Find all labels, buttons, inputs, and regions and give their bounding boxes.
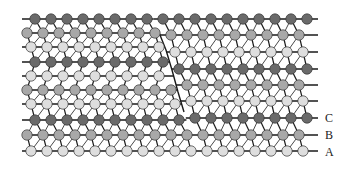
atom-a bbox=[42, 146, 52, 156]
atom-a bbox=[282, 47, 292, 57]
atom-c bbox=[78, 57, 88, 67]
atom-b bbox=[70, 85, 80, 95]
atom-c bbox=[158, 14, 168, 24]
atom-b bbox=[182, 80, 192, 90]
atom-a bbox=[26, 99, 36, 109]
atom-b bbox=[134, 28, 144, 38]
atom-b bbox=[86, 85, 96, 95]
atom-a bbox=[298, 146, 308, 156]
atom-b bbox=[102, 85, 112, 95]
atom-a bbox=[42, 99, 52, 109]
atom-a bbox=[58, 99, 68, 109]
atom-a bbox=[106, 42, 116, 52]
atom-a bbox=[266, 47, 276, 57]
atom-c bbox=[78, 115, 88, 125]
atom-b bbox=[230, 80, 240, 90]
atom-c bbox=[46, 115, 56, 125]
atom-a bbox=[186, 146, 196, 156]
atom-c bbox=[270, 113, 280, 123]
atom-c bbox=[158, 57, 168, 67]
atom-c bbox=[110, 14, 120, 24]
atom-a bbox=[250, 47, 260, 57]
atom-a bbox=[202, 96, 212, 106]
atom-c bbox=[302, 64, 312, 74]
atom-b bbox=[198, 30, 208, 40]
atom-a bbox=[298, 96, 308, 106]
atom-c bbox=[142, 57, 152, 67]
atom-c bbox=[302, 113, 312, 123]
atom-a bbox=[58, 146, 68, 156]
atom-c bbox=[286, 113, 296, 123]
atom-c bbox=[238, 113, 248, 123]
atom-c bbox=[222, 14, 232, 24]
atom-c bbox=[62, 57, 72, 67]
atom-b bbox=[54, 85, 64, 95]
atom-c bbox=[126, 57, 136, 67]
atom-b bbox=[198, 80, 208, 90]
atom-c bbox=[206, 64, 216, 74]
atom-a bbox=[298, 47, 308, 57]
atom-c bbox=[158, 115, 168, 125]
atom-a bbox=[266, 96, 276, 106]
atom-b bbox=[262, 130, 272, 140]
atom-a bbox=[122, 71, 132, 81]
atom-a bbox=[170, 99, 180, 109]
atom-b bbox=[22, 130, 32, 140]
atom-c bbox=[270, 64, 280, 74]
atom-b bbox=[198, 130, 208, 140]
atom-c bbox=[142, 115, 152, 125]
atom-c bbox=[174, 64, 184, 74]
atom-c bbox=[190, 113, 200, 123]
atom-a bbox=[154, 71, 164, 81]
atom-a bbox=[250, 96, 260, 106]
atom-c bbox=[62, 14, 72, 24]
atom-a bbox=[90, 71, 100, 81]
atom-c bbox=[254, 113, 264, 123]
atom-c bbox=[78, 14, 88, 24]
atom-b bbox=[70, 130, 80, 140]
crystal-lattice-diagram bbox=[0, 0, 349, 171]
atom-c bbox=[254, 14, 264, 24]
atom-c bbox=[126, 115, 136, 125]
atom-c bbox=[254, 64, 264, 74]
atom-b bbox=[278, 30, 288, 40]
atom-c bbox=[222, 113, 232, 123]
atom-a bbox=[218, 96, 228, 106]
atom-b bbox=[246, 30, 256, 40]
atom-a bbox=[282, 96, 292, 106]
atom-b bbox=[150, 28, 160, 38]
atom-c bbox=[30, 115, 40, 125]
atom-c bbox=[62, 115, 72, 125]
atom-a bbox=[74, 99, 84, 109]
atom-c bbox=[174, 14, 184, 24]
layer-label-b: B bbox=[325, 128, 333, 143]
atom-c bbox=[142, 14, 152, 24]
atom-a bbox=[138, 42, 148, 52]
atom-a bbox=[154, 42, 164, 52]
atom-a bbox=[170, 146, 180, 156]
atom-a bbox=[106, 71, 116, 81]
atom-a bbox=[74, 146, 84, 156]
atom-c bbox=[94, 57, 104, 67]
atom-b bbox=[118, 130, 128, 140]
atom-a bbox=[90, 42, 100, 52]
atom-a bbox=[250, 146, 260, 156]
atom-b bbox=[134, 85, 144, 95]
atom-a bbox=[26, 42, 36, 52]
atom-b bbox=[214, 80, 224, 90]
atom-a bbox=[90, 146, 100, 156]
atom-b bbox=[214, 130, 224, 140]
atom-b bbox=[102, 130, 112, 140]
atom-a bbox=[234, 96, 244, 106]
atom-b bbox=[54, 28, 64, 38]
atom-b bbox=[150, 130, 160, 140]
atom-b bbox=[38, 85, 48, 95]
atom-b bbox=[262, 80, 272, 90]
atom-a bbox=[42, 71, 52, 81]
atom-b bbox=[86, 28, 96, 38]
atom-a bbox=[26, 146, 36, 156]
atom-a bbox=[122, 146, 132, 156]
atom-a bbox=[202, 146, 212, 156]
atom-c bbox=[238, 64, 248, 74]
atom-b bbox=[262, 30, 272, 40]
